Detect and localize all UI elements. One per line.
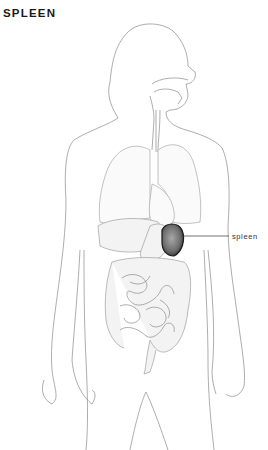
anatomy-illustration bbox=[0, 0, 268, 450]
intestines bbox=[105, 258, 190, 375]
spleen-label: spleen bbox=[232, 232, 258, 241]
airway bbox=[150, 78, 188, 152]
lungs bbox=[99, 145, 200, 228]
spleen-organ bbox=[162, 224, 184, 256]
liver-stomach bbox=[98, 219, 170, 262]
